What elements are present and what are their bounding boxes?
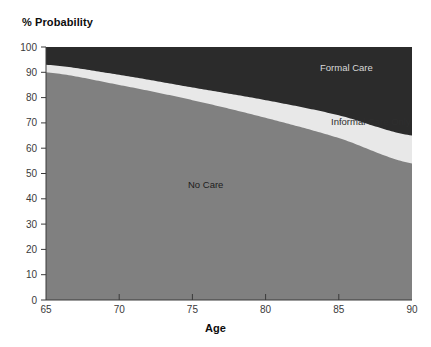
y-axis-tick-label: 70	[26, 117, 38, 128]
y-axis-tick-label: 40	[26, 193, 38, 204]
x-axis-tick-label: 65	[40, 304, 52, 315]
y-axis-tick-label: 90	[26, 67, 38, 78]
y-axis-tick-label: 10	[26, 269, 38, 280]
chart-container: % Probability 0102030405060708090100 657…	[0, 0, 431, 347]
y-axis-ticks: 0102030405060708090100	[20, 42, 46, 306]
x-axis-title: Age	[0, 322, 431, 334]
y-axis-tick-label: 100	[20, 42, 37, 53]
area-label-formal-care: Formal Care	[320, 62, 373, 73]
y-axis-tick-label: 0	[31, 295, 37, 306]
y-axis-tick-label: 20	[26, 244, 38, 255]
area-label-informal-care: Informal Care Only	[331, 116, 411, 127]
y-axis-tick-label: 30	[26, 219, 38, 230]
x-axis-tick-label: 85	[333, 304, 345, 315]
y-axis-tick-label: 60	[26, 143, 38, 154]
x-axis-tick-label: 80	[260, 304, 272, 315]
x-axis-tick-label: 90	[406, 304, 418, 315]
y-axis-tick-label: 80	[26, 92, 38, 103]
area-label-no-care: No Care	[188, 179, 223, 190]
x-axis-tick-label: 70	[114, 304, 126, 315]
chart-plot-area: 0102030405060708090100 657075808590	[0, 0, 431, 347]
x-axis-tick-label: 75	[187, 304, 199, 315]
y-axis-tick-label: 50	[26, 168, 38, 179]
